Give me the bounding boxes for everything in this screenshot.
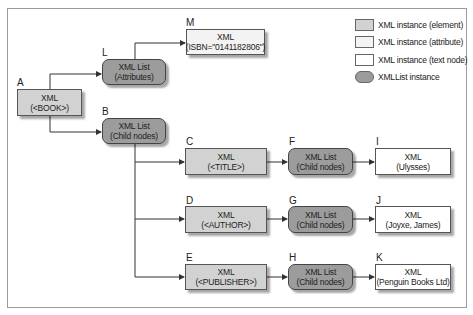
node-j-author-text: XML (Joyxe, James): [375, 206, 451, 233]
node-i-ulysses-text: XML (Ulysses): [375, 148, 451, 175]
node-c-letter: C: [186, 137, 193, 147]
node-l-line1: XML List: [118, 62, 149, 72]
node-m-isbn-attribute: XML (ISBN="0141182806"): [186, 29, 265, 55]
node-l-attributes-list: XML List (Attributes): [102, 59, 166, 85]
node-b-child-nodes-list: XML List (Child nodes): [102, 118, 166, 144]
node-h-letter: H: [289, 253, 296, 263]
node-g-line1: XML List: [305, 210, 336, 220]
node-f-line1: XML List: [305, 152, 336, 162]
legend-label-text-node: XML instance (text node): [378, 54, 467, 66]
node-e-letter: E: [186, 253, 193, 263]
node-h-line2: (Child nodes): [297, 277, 345, 287]
node-k-line2: (Penguin Books Ltd): [376, 277, 449, 287]
node-a-book-element: XML (<BOOK>): [17, 89, 82, 116]
node-j-line1: XML: [405, 210, 422, 220]
node-a-letter: A: [17, 78, 24, 88]
node-h-child-nodes-list: XML List (Child nodes): [288, 264, 353, 290]
node-m-letter: M: [186, 18, 194, 28]
node-e-publisher-element: XML (<PUBLISHER>): [185, 264, 267, 290]
node-d-line1: XML: [218, 210, 235, 220]
node-h-line1: XML List: [305, 267, 336, 277]
node-l-letter: L: [102, 48, 108, 58]
legend-swatch-text-node: [355, 54, 374, 66]
legend-label-attribute: XML instance (attribute): [378, 36, 463, 48]
node-l-line2: (Attributes): [114, 72, 153, 82]
node-c-title-element: XML (<TITLE>): [185, 148, 267, 175]
node-a-line2: (<BOOK>): [30, 103, 69, 113]
node-e-line1: XML: [218, 267, 235, 277]
node-e-line2: (<PUBLISHER>): [195, 277, 256, 287]
legend-label-element: XML instance (element): [378, 19, 463, 31]
node-j-line2: (Joyxe, James): [386, 220, 441, 230]
node-m-line2: (ISBN="0141182806"): [186, 42, 265, 52]
node-f-line2: (Child nodes): [297, 162, 345, 172]
legend-swatch-attribute: [355, 36, 374, 48]
node-d-line2: (<AUTHOR>): [201, 220, 250, 230]
node-c-line2: (<TITLE>): [208, 162, 245, 172]
node-b-line2: (Child nodes): [110, 131, 158, 141]
node-g-child-nodes-list: XML List (Child nodes): [288, 206, 353, 233]
legend-label-xmllist: XMLList instance: [378, 71, 440, 83]
node-k-line1: XML: [405, 267, 422, 277]
node-a-line1: XML: [41, 93, 58, 103]
node-d-author-element: XML (<AUTHOR>): [185, 206, 267, 233]
node-k-publisher-text: XML (Penguin Books Ltd): [375, 264, 451, 290]
node-i-letter: I: [376, 137, 379, 147]
node-g-letter: G: [289, 196, 297, 206]
legend-swatch-element: [355, 19, 374, 31]
node-c-line1: XML: [218, 152, 235, 162]
node-k-letter: K: [376, 253, 383, 263]
node-d-letter: D: [186, 196, 193, 206]
legend-swatch-xmllist: [355, 71, 374, 83]
node-f-child-nodes-list: XML List (Child nodes): [288, 148, 353, 175]
node-i-line1: XML: [405, 152, 422, 162]
node-i-line2: (Ulysses): [396, 162, 430, 172]
node-b-letter: B: [102, 107, 109, 117]
node-g-line2: (Child nodes): [297, 220, 345, 230]
node-b-line1: XML List: [118, 121, 149, 131]
node-f-letter: F: [289, 137, 295, 147]
node-j-letter: J: [376, 196, 381, 206]
node-m-line1: XML: [217, 32, 234, 42]
